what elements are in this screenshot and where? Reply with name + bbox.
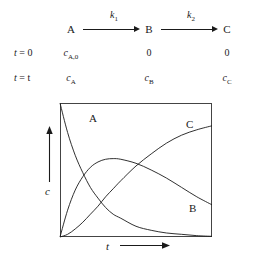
curve-label-c: C — [186, 119, 193, 130]
x-axis-arrow-icon — [120, 241, 170, 250]
reaction-kinetics-figure: A k1 B k2 C t = 0 cA,0 0 0 t = t cA cB — [0, 0, 258, 258]
curve-b-path — [60, 159, 212, 237]
curve-label-a: A — [89, 113, 97, 124]
y-axis-arrow-icon — [45, 126, 54, 182]
x-axis-label: t — [106, 241, 109, 252]
y-axis-label: c — [45, 186, 50, 197]
curve-label-b: B — [189, 203, 196, 214]
concentration-time-plot: A B C c t — [0, 0, 258, 258]
curve-c-path — [60, 126, 212, 237]
